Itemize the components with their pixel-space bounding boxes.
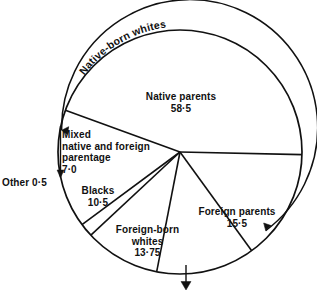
sector-divider-native-foreign-parents — [180, 152, 302, 155]
slice-name-native-parents: Native parents — [146, 91, 216, 102]
slice-name-blacks: Blacks — [82, 185, 115, 196]
slice-label-other: Other 0·5 — [2, 177, 64, 189]
slice-label-foreign-born-whites: Foreign-born whites 13·75 — [101, 224, 194, 259]
pie-chart: Native-born whites Native parents 58·5 F… — [0, 0, 317, 296]
slice-label-blacks: Blacks 10·5 — [62, 185, 134, 208]
slice-value-foreign-parents: 15·5 — [182, 218, 292, 230]
slice-name-foreign-parents: Foreign parents — [198, 206, 275, 217]
slice-name-foreign-born-whites-line2: whites — [101, 236, 194, 248]
slice-value-mixed: 7·0 — [62, 164, 180, 176]
slice-name-mixed-line2: native and foreign — [62, 141, 180, 153]
slice-label-foreign-parents: Foreign parents 15·5 — [182, 206, 292, 229]
slice-value-native-parents: 58·5 — [127, 103, 235, 115]
slice-label-mixed-parentage: Mixed native and foreign parentage 7·0 — [62, 129, 180, 175]
cut-off-bottom-caption — [0, 288, 317, 296]
slice-name-mixed-line3: parentage — [62, 152, 180, 164]
slice-value-foreign-born-whites: 13·75 — [101, 247, 194, 259]
slice-name-mixed-line1: Mixed — [62, 129, 91, 140]
slice-label-native-parents: Native parents 58·5 — [127, 91, 235, 114]
slice-name-foreign-born-whites-line1: Foreign-born — [116, 224, 179, 235]
slice-value-blacks: 10·5 — [62, 197, 134, 209]
